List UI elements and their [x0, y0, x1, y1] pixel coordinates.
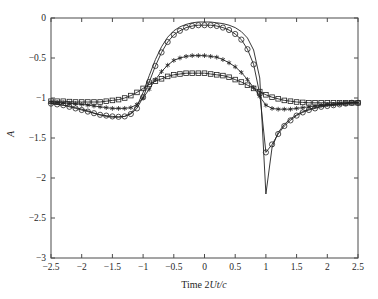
x-tick-label: −1.5 — [104, 262, 121, 272]
y-tick-label: 0 — [41, 13, 46, 23]
x-tick-label: −2.5 — [42, 262, 59, 272]
series-circle-marker — [48, 23, 360, 155]
y-tick-label: −1 — [36, 93, 46, 103]
y-tick-label: −0.5 — [29, 53, 46, 63]
x-axis-title: Time 2Ut/c — [181, 279, 227, 290]
series-path — [51, 22, 358, 194]
marker-star — [227, 60, 231, 65]
x-tick-label: 2.5 — [352, 262, 364, 272]
x-tick-label: 0.5 — [229, 262, 241, 272]
chart-svg: −2.5−2−1.5−1−0.500.511.522.5 0−0.5−1−1.5… — [0, 0, 378, 299]
chart-figure: −2.5−2−1.5−1−0.500.511.522.5 0−0.5−1−1.5… — [0, 0, 378, 299]
x-tick-label: 1 — [264, 262, 269, 272]
y-tick-label: −3 — [36, 253, 46, 263]
y-tick-label: −2 — [36, 173, 46, 183]
x-tick-label: 1.5 — [291, 262, 303, 272]
y-axis-title: A — [5, 130, 16, 138]
series-path — [51, 73, 358, 103]
data-series-group — [48, 22, 360, 194]
y-axis-ticks: 0−0.5−1−1.5−2−2.5−3 — [29, 13, 358, 263]
marker-star — [221, 57, 225, 62]
series-solid-no-marker — [51, 22, 358, 194]
x-tick-label: −1 — [138, 262, 148, 272]
x-tick-label: 2 — [325, 262, 330, 272]
series-square-marker — [49, 71, 361, 105]
series-path — [51, 56, 358, 110]
x-tick-label: 0 — [202, 262, 207, 272]
x-tick-label: −0.5 — [165, 262, 182, 272]
x-tick-label: −2 — [77, 262, 87, 272]
y-tick-label: −2.5 — [29, 213, 46, 223]
y-tick-label: −1.5 — [29, 133, 46, 143]
series-path — [51, 25, 358, 152]
